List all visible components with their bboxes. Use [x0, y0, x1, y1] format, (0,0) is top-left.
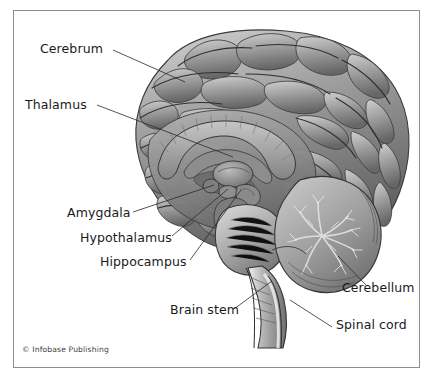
label-amygdala: Amygdala	[67, 207, 131, 220]
label-cerebrum: Cerebrum	[40, 43, 103, 56]
label-hippocampus: Hippocampus	[100, 256, 187, 269]
label-cerebellum: Cerebellum	[342, 282, 415, 295]
label-brain-stem: Brain stem	[170, 304, 239, 317]
label-spinal-cord: Spinal cord	[336, 319, 407, 332]
copyright-notice: © Infobase Publishing	[22, 345, 109, 354]
label-thalamus: Thalamus	[25, 99, 87, 112]
brain-anatomy-figure: Cerebrum Thalamus Amygdala Hypothalamus …	[0, 0, 436, 385]
label-hypothalamus: Hypothalamus	[80, 232, 172, 245]
